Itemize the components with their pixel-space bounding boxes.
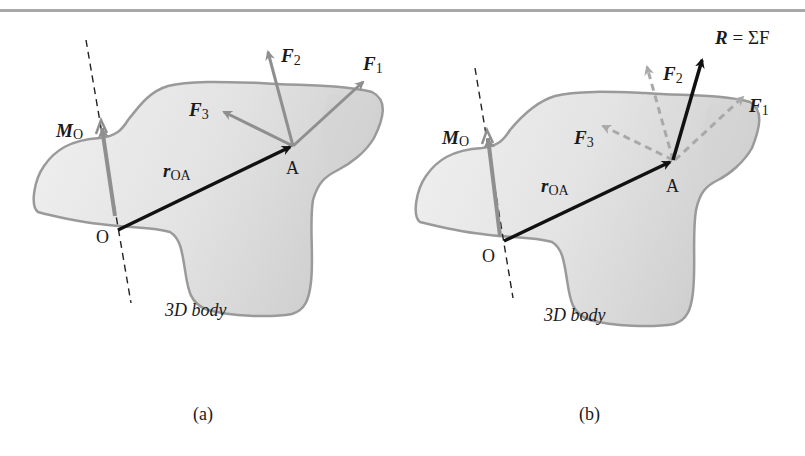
- force-f1-label: F1: [362, 53, 383, 76]
- body-label: 3D body: [543, 305, 606, 325]
- panel-caption: (b): [579, 404, 600, 425]
- panel-caption: (a): [193, 404, 213, 425]
- resultant-label: R = ΣF: [714, 27, 770, 48]
- figure-canvas: MO O A rOA F2 F1 F3 3D body (a) MO O A r…: [0, 0, 805, 456]
- moment-label: MO: [441, 127, 469, 149]
- panel-a: MO O A rOA F2 F1 F3 3D body (a): [34, 40, 383, 425]
- force-f2-label: F2: [662, 63, 683, 86]
- body-shade: [703, 104, 750, 178]
- body-label: 3D body: [164, 300, 227, 320]
- point-o-label: O: [96, 227, 109, 247]
- moment-label: MO: [55, 120, 83, 142]
- panel-b: MO O A rOA F2 F1 F3 R = ΣF 3D body (b): [416, 27, 770, 425]
- point-a-label: A: [666, 176, 679, 196]
- point-o-label: O: [482, 246, 495, 266]
- force-f2-label: F2: [280, 45, 301, 68]
- force-f1-label: F1: [748, 95, 769, 118]
- point-a-label: A: [286, 158, 299, 178]
